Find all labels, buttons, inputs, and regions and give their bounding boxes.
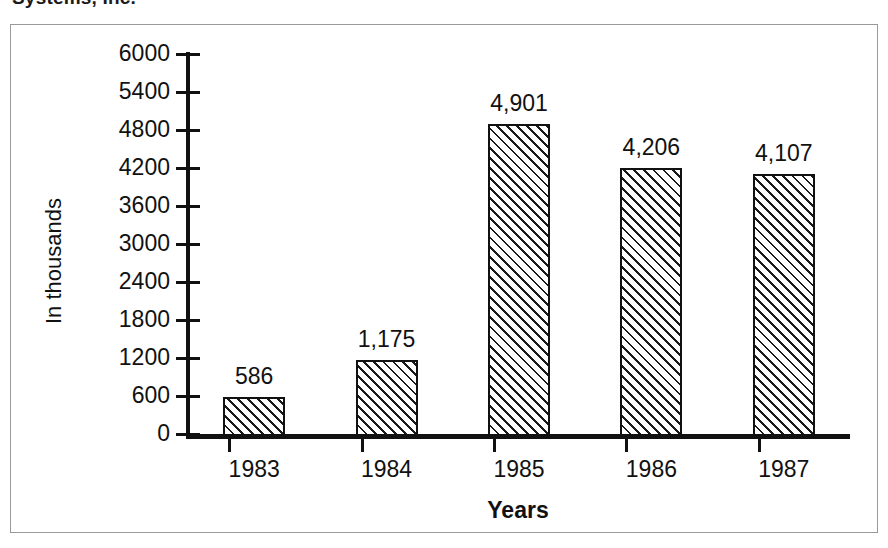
document-title-text: Systems, Inc. <box>12 0 136 9</box>
clipped-document-title: Systems, Inc. <box>0 0 888 16</box>
chart-figure-frame <box>10 24 878 533</box>
